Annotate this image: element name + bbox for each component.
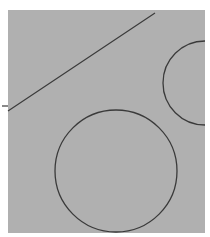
diagonal-line	[8, 13, 155, 111]
geometry-figure	[0, 0, 210, 237]
right-partial-circle	[163, 41, 210, 125]
large-circle	[55, 110, 177, 232]
